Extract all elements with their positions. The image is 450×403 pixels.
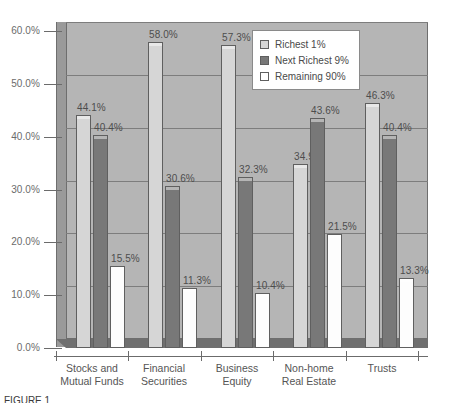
gridline bbox=[66, 75, 428, 76]
bar-2-next-richest-9 bbox=[165, 186, 180, 348]
bar-top-highlight bbox=[256, 294, 269, 297]
x-tick-mark bbox=[56, 351, 57, 361]
y-tick-mark bbox=[44, 137, 62, 138]
bar-top-highlight bbox=[111, 267, 124, 270]
bar-value-label: 13.3% bbox=[400, 265, 429, 276]
bar-value-label: 58.0% bbox=[149, 29, 178, 40]
x-axis-line bbox=[54, 356, 428, 357]
figure-caption: FIGURE 1 bbox=[4, 395, 50, 403]
y-tick-label: 40.0% bbox=[0, 131, 40, 142]
bar-4-richest-1 bbox=[293, 164, 308, 348]
y-tick-mark bbox=[44, 242, 62, 243]
bar-top-highlight bbox=[222, 46, 235, 49]
bar-5-remaining-90 bbox=[399, 278, 414, 348]
bar-2-richest-1 bbox=[148, 42, 163, 348]
legend-swatch-remaining-90-icon bbox=[260, 72, 269, 81]
bar-value-label: 32.3% bbox=[239, 164, 268, 175]
bar-3-remaining-90 bbox=[255, 293, 270, 348]
bar-1-next-richest-9 bbox=[93, 135, 108, 348]
bar-3-richest-1 bbox=[221, 45, 236, 348]
y-tick-mark bbox=[44, 84, 62, 85]
bar-top-highlight bbox=[311, 119, 324, 122]
chart-container: 60.0%50.0%40.0%30.0%20.0%10.0%0.0% 44.1%… bbox=[0, 0, 450, 403]
bar-value-label: 10.4% bbox=[256, 280, 285, 291]
x-category-label: Stocks and Mutual Funds bbox=[56, 362, 128, 387]
bar-4-next-richest-9 bbox=[310, 118, 325, 348]
bar-5-next-richest-9 bbox=[382, 135, 397, 348]
y-tick-label: 30.0% bbox=[0, 184, 40, 195]
y-tick-mark bbox=[44, 190, 62, 191]
bar-value-label: 21.5% bbox=[328, 221, 357, 232]
x-tick-mark bbox=[273, 351, 274, 361]
gridline bbox=[66, 22, 428, 23]
bar-top-highlight bbox=[149, 43, 162, 46]
x-tick-mark bbox=[128, 351, 129, 361]
legend-label-remaining-90: Remaining 90% bbox=[275, 71, 346, 82]
bar-value-label: 46.3% bbox=[366, 90, 395, 101]
bar-top-highlight bbox=[400, 279, 413, 282]
x-tick-mark bbox=[346, 351, 347, 361]
legend-label-richest-1: Richest 1% bbox=[275, 39, 326, 50]
x-category-label: Business Equity bbox=[201, 362, 273, 387]
x-category-label: Financial Securities bbox=[128, 362, 200, 387]
bar-value-label: 43.6% bbox=[311, 105, 340, 116]
legend-item-remaining-90: Remaining 90% bbox=[260, 68, 352, 84]
bar-2-remaining-90 bbox=[182, 288, 197, 348]
bar-top-highlight bbox=[166, 187, 179, 190]
bar-value-label: 57.3% bbox=[222, 32, 251, 43]
bar-top-highlight bbox=[383, 136, 396, 139]
bar-3-next-richest-9 bbox=[238, 177, 253, 348]
legend: Richest 1% Next Richest 9% Remaining 90% bbox=[252, 30, 360, 90]
bar-value-label: 30.6% bbox=[166, 173, 195, 184]
bar-value-label: 11.3% bbox=[183, 275, 211, 286]
bar-5-richest-1 bbox=[365, 103, 380, 348]
bar-top-highlight bbox=[94, 136, 107, 139]
bar-value-label: 44.1% bbox=[77, 102, 106, 113]
bar-top-highlight bbox=[366, 104, 379, 107]
y-tick-label: 60.0% bbox=[0, 25, 40, 36]
x-tick-mark bbox=[418, 351, 419, 361]
y-tick-mark bbox=[44, 348, 62, 349]
bar-top-highlight bbox=[294, 165, 307, 168]
legend-label-next-richest-9: Next Richest 9% bbox=[275, 55, 349, 66]
legend-swatch-next-richest-9-icon bbox=[260, 56, 269, 65]
x-tick-mark bbox=[201, 351, 202, 361]
bar-top-highlight bbox=[183, 289, 196, 292]
y-tick-mark bbox=[44, 295, 62, 296]
y-tick-label: 50.0% bbox=[0, 78, 40, 89]
x-category-label: Trusts bbox=[346, 362, 418, 375]
bar-4-remaining-90 bbox=[327, 234, 342, 348]
legend-item-next-richest-9: Next Richest 9% bbox=[260, 52, 352, 68]
x-category-label: Non-home Real Estate bbox=[273, 362, 345, 387]
bar-value-label: 40.4% bbox=[383, 122, 412, 133]
bar-1-remaining-90 bbox=[110, 266, 125, 348]
bar-value-label: 40.4% bbox=[94, 122, 123, 133]
bar-top-highlight bbox=[77, 116, 90, 119]
bar-top-highlight bbox=[239, 178, 252, 181]
y-tick-label: 20.0% bbox=[0, 236, 40, 247]
legend-item-richest-1: Richest 1% bbox=[260, 36, 352, 52]
bar-1-richest-1 bbox=[76, 115, 91, 348]
bar-top-highlight bbox=[328, 235, 341, 238]
y-tick-label: 10.0% bbox=[0, 289, 40, 300]
y-tick-label: 0.0% bbox=[0, 342, 40, 353]
y-tick-mark bbox=[44, 31, 62, 32]
legend-swatch-richest-1-icon bbox=[260, 40, 269, 49]
bar-value-label: 15.5% bbox=[111, 253, 140, 264]
